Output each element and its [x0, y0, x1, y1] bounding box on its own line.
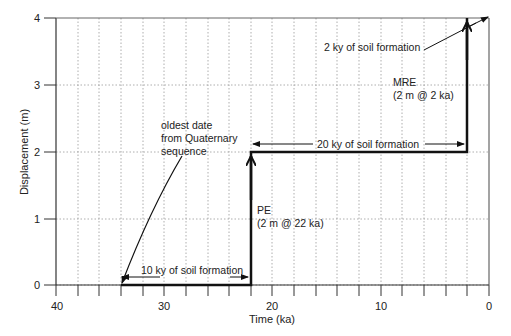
x-tick-20: 20: [266, 300, 278, 312]
x-tick-40: 40: [51, 300, 63, 312]
displacement-chart: 4 3 2 1 0 Displacement (m) 40 30 20 10 0…: [0, 0, 511, 336]
x-axis-label: Time (ka): [249, 313, 295, 325]
y-tick-0: 0: [34, 279, 40, 291]
soil10-label: 10 ky of soil formation: [141, 264, 243, 276]
soil20-label: 20 ky of soil formation: [317, 138, 419, 150]
x-tick-0: 0: [486, 300, 492, 312]
y-tick-2: 2: [34, 146, 40, 158]
y-tick-1: 1: [34, 213, 40, 225]
soil2-label: 2 ky of soil formation: [324, 41, 420, 53]
oldest-date-line3: sequence: [161, 145, 207, 157]
mre-label-line2: (2 m @ 2 ka): [393, 89, 454, 101]
y-axis-label: Displacement (m): [18, 109, 30, 195]
x-tick-30: 30: [158, 300, 170, 312]
pe-label-line1: PE: [257, 204, 271, 216]
x-tick-10: 10: [375, 300, 387, 312]
y-tick-4: 4: [34, 12, 40, 24]
x-axis: [56, 285, 489, 296]
y-axis: [44, 18, 56, 285]
mre-label-line1: MRE: [393, 76, 416, 88]
pe-label-line2: (2 m @ 22 ka): [257, 217, 324, 229]
y-tick-3: 3: [34, 79, 40, 91]
oldest-date-line1: oldest date: [161, 119, 213, 131]
oldest-date-line2: from Quaternary: [161, 132, 238, 144]
